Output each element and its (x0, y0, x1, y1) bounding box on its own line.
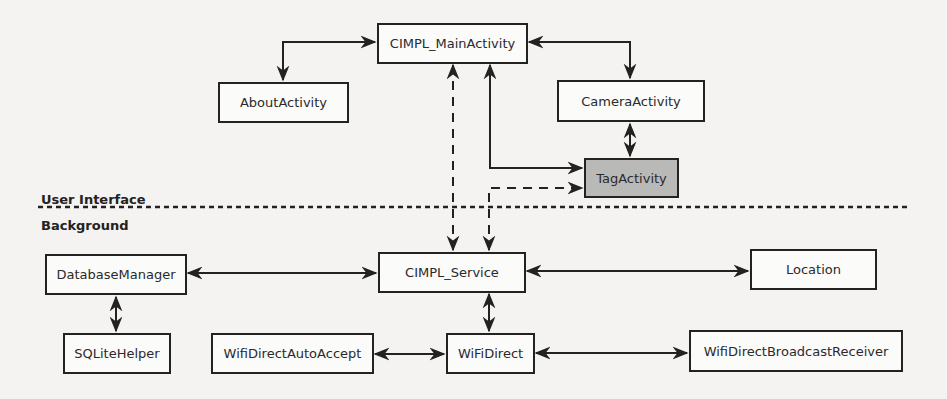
node-database-manager: DatabaseManager (45, 254, 187, 295)
node-camera-activity: CameraActivity (557, 80, 705, 122)
node-about-activity: AboutActivity (218, 82, 349, 123)
node-sqlite-helper: SQLiteHelper (63, 333, 171, 374)
layer-label-user-interface: User Interface (41, 192, 146, 207)
node-wifi-direct: WiFiDirect (446, 333, 535, 374)
node-wifi-direct-broadcast-receiver: WifiDirectBroadcastReceiver (689, 330, 903, 372)
node-service: CIMPL_Service (378, 252, 526, 293)
node-main-activity: CIMPL_MainActivity (377, 23, 528, 64)
edge-main-about (283, 42, 375, 80)
edge-main-camera (529, 42, 630, 78)
node-tag-activity: TagActivity (584, 158, 679, 198)
node-wifi-direct-auto-accept: WifiDirectAutoAccept (211, 333, 374, 374)
node-location: Location (750, 249, 877, 290)
layer-label-background: Background (41, 218, 129, 233)
edge-service-tag (489, 188, 582, 250)
